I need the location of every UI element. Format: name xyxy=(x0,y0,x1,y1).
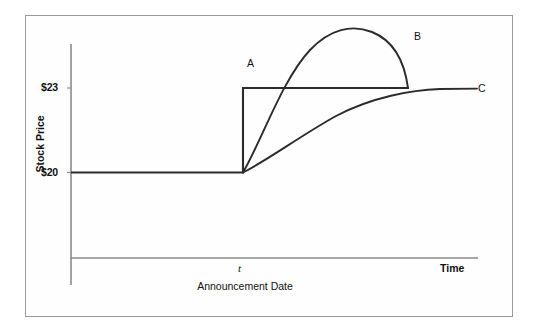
chart-figure: $23 $20 Stock Price t Announcement Date … xyxy=(0,0,536,333)
x-axis-event-caption: Announcement Date xyxy=(160,280,330,292)
x-axis-event-tick-label: t xyxy=(238,262,241,274)
x-axis-title: Time xyxy=(440,262,464,274)
y-axis-title: Stock Price xyxy=(34,99,46,189)
curve-a-efficient xyxy=(71,88,409,173)
curve-b-overreaction xyxy=(243,28,408,172)
curve-label-c: C xyxy=(478,82,486,94)
curve-label-b: B xyxy=(414,30,421,42)
y-axis-tick-label-23: $23 xyxy=(41,81,58,93)
curve-label-a: A xyxy=(247,57,254,69)
